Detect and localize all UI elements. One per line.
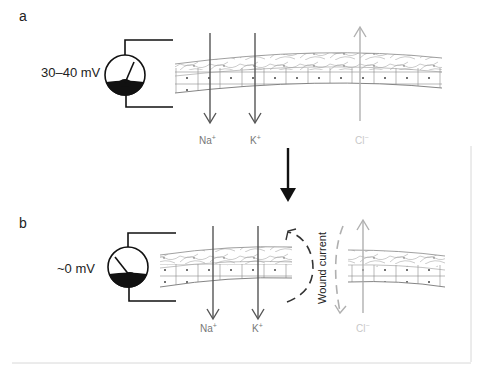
panel-b-na-label: Na+ — [200, 322, 217, 334]
panel-a-cl-label: Cl− — [355, 134, 369, 146]
epithelium-tissue-right — [345, 245, 450, 295]
panel-a-k-label: K+ — [250, 134, 261, 146]
transition-arrow-down-icon — [280, 148, 296, 202]
wound-current-label: Wound current — [316, 228, 328, 308]
wound-current-arrow-right-icon — [335, 226, 346, 313]
epithelium-tissue-left — [155, 240, 295, 294]
panel-b — [108, 220, 450, 319]
epithelium-tissue — [170, 40, 450, 98]
panel-a-na-label: Na+ — [199, 134, 216, 146]
panel-a — [105, 27, 450, 123]
panel-b-cl-label: Cl− — [356, 322, 370, 334]
voltmeter-gauge-icon — [105, 40, 173, 107]
diagram-canvas — [0, 0, 487, 378]
panel-b-k-label: K+ — [252, 322, 263, 334]
